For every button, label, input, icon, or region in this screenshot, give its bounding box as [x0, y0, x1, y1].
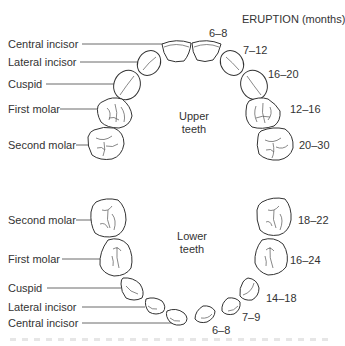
upper-lateral-incisor-eruption: 7–12 — [243, 44, 267, 56]
lower-cuspid-label: Cuspid — [8, 282, 42, 294]
upper-lateral-incisor-label: Lateral incisor — [8, 56, 76, 68]
upper-first-molar-left — [97, 98, 132, 128]
lower-lateral-incisor-eruption: 7–9 — [242, 311, 260, 323]
upper-second-molar-label: Second molar — [8, 139, 76, 151]
lower-second-molar-label: Second molar — [8, 214, 76, 226]
upper-first-molar-right — [246, 98, 280, 128]
lower-cuspid-eruption: 14–18 — [266, 292, 297, 304]
lower-first-molar-right — [255, 239, 288, 275]
upper-first-molar-eruption: 12–16 — [290, 103, 321, 115]
upper-central-incisor-left — [162, 41, 191, 62]
upper-second-molar-left — [88, 127, 124, 159]
upper-central-incisor-eruption: 6–8 — [209, 27, 227, 39]
upper-cuspid-eruption: 16–20 — [268, 68, 299, 80]
lower-lateral-incisor-label: Lateral incisor — [8, 301, 76, 313]
lower-second-molar-left — [91, 199, 126, 237]
lower-first-molar-label: First molar — [8, 253, 60, 265]
lower-cuspid-right — [240, 278, 259, 300]
upper-first-molar-label: First molar — [8, 103, 60, 115]
lower-central-incisor-eruption: 6–8 — [212, 324, 230, 336]
lower-second-molar-right — [257, 198, 291, 235]
upper-central-incisor-label: Central incisor — [8, 38, 78, 50]
upper-central-incisor-right — [192, 41, 221, 62]
lower-first-molar-eruption: 16–24 — [290, 254, 321, 266]
lower-first-molar-left — [100, 239, 132, 276]
lower-second-molar-eruption: 18–22 — [298, 214, 329, 226]
upper-second-molar-eruption: 20–30 — [299, 139, 330, 151]
upper-second-molar-right — [257, 128, 293, 160]
upper-teeth-label: Upper teeth — [164, 110, 224, 136]
lower-cuspid-left — [121, 278, 143, 300]
cropped-caption — [10, 338, 330, 341]
lower-central-incisor-label: Central incisor — [8, 317, 78, 329]
upper-cuspid-label: Cuspid — [8, 78, 42, 90]
lower-teeth-label: Lower teeth — [162, 230, 222, 256]
